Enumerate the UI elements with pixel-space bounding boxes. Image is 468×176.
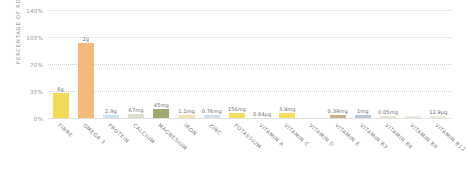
bar[interactable]	[179, 115, 195, 118]
y-axis-tick: 35%	[30, 89, 43, 95]
bar-value-label: 45mg	[154, 102, 169, 108]
bar-value-label: 1.1mg	[178, 108, 195, 114]
x-label-slot: VITAMIN A	[250, 120, 275, 176]
x-label-slot: MAGNESIUM	[149, 120, 174, 176]
bar[interactable]	[229, 113, 245, 118]
bar-value-label: 0.05mg	[378, 109, 398, 115]
bar[interactable]	[430, 116, 446, 118]
bar-value-label: 0.76mg	[202, 108, 222, 114]
bar[interactable]	[128, 114, 144, 118]
x-axis-tick-label: VITAMIN B12	[434, 122, 467, 153]
x-label-slot: ZINC	[199, 120, 224, 176]
bar-slot[interactable]: 2.9g	[98, 10, 123, 118]
bar[interactable]	[153, 109, 169, 118]
bar-slot[interactable]: 0.39mg	[325, 10, 350, 118]
bar-value-label: 67mg	[129, 107, 144, 113]
x-label-slot: VITAMIN B6	[375, 120, 400, 176]
bar[interactable]	[330, 115, 346, 118]
bar-slot[interactable]: 156mg	[224, 10, 249, 118]
y-axis-tick: 70%	[30, 62, 43, 68]
x-label-slot: IRON	[174, 120, 199, 176]
bar-value-label: 6g	[57, 86, 64, 92]
x-label-slot: FIBRE	[48, 120, 73, 176]
bar-value-label: 2g	[82, 36, 89, 42]
bar-slot[interactable]: 2g	[73, 10, 98, 118]
bar[interactable]	[204, 115, 220, 118]
bar[interactable]	[53, 93, 69, 118]
bar-slot[interactable]: 12.9µg	[426, 10, 451, 118]
bar[interactable]	[405, 116, 421, 118]
bar-value-label: 1mg	[357, 108, 369, 114]
y-axis-tick: 140%	[26, 8, 43, 14]
x-label-slot: VITAMIN B12	[426, 120, 451, 176]
x-axis-tick-label: ZINC	[208, 122, 223, 136]
bar-slot[interactable]: 1mg	[350, 10, 375, 118]
bar-value-label: 2.9g	[105, 108, 117, 114]
bar-slot[interactable]: 0.76mg	[199, 10, 224, 118]
bar-value-label: 0.64µg	[253, 111, 271, 117]
bar-slot[interactable]: 3.9mg	[275, 10, 300, 118]
bar-slot[interactable]: 67mg	[124, 10, 149, 118]
bar[interactable]	[355, 115, 371, 118]
x-label-slot: POTASSIUM	[224, 120, 249, 176]
x-label-slot: PROTEIN	[98, 120, 123, 176]
y-axis-tick: 105%	[26, 35, 43, 41]
bar[interactable]	[78, 43, 94, 118]
gridline: 0%	[48, 118, 451, 119]
bar-slot[interactable]: 6g	[48, 10, 73, 118]
bar-value-label: 0.39mg	[328, 108, 348, 114]
x-label-slot: VITAMIN D	[300, 120, 325, 176]
bar-slot[interactable]	[300, 10, 325, 118]
x-axis-labels: FIBREOMEGA 3PROTEINCALCIUMMAGNESIUMIRONZ…	[48, 120, 451, 176]
x-label-slot: CALCIUM	[124, 120, 149, 176]
bar-slot[interactable]: 45mg	[149, 10, 174, 118]
bar-slot[interactable]	[401, 10, 426, 118]
bar-slot[interactable]: 1.1mg	[174, 10, 199, 118]
y-axis-title: PERCENTAGE OF RDA	[15, 0, 21, 77]
bar[interactable]	[380, 116, 396, 118]
bar-value-label: 12.9µg	[429, 109, 447, 115]
bar-slot[interactable]: 0.05mg	[375, 10, 400, 118]
bar-value-label: 156mg	[228, 106, 246, 112]
x-label-slot: VITAMIN B3	[350, 120, 375, 176]
x-axis-tick-label: IRON	[183, 122, 198, 137]
bar-slot[interactable]: 0.64µg	[250, 10, 275, 118]
bar-value-label: 3.9mg	[279, 106, 296, 112]
x-label-slot: VITAMIN B9	[401, 120, 426, 176]
x-axis-tick-label: FIBRE	[57, 122, 74, 138]
x-label-slot: VITAMIN E	[325, 120, 350, 176]
x-label-slot: OMEGA 3	[73, 120, 98, 176]
y-axis-tick: 0%	[34, 116, 43, 122]
plot-area: 0%35%70%105%140% 6g2g2.9g67mg45mg1.1mg0.…	[48, 10, 451, 118]
bar[interactable]	[279, 113, 295, 118]
bar[interactable]	[103, 115, 119, 118]
bar-series: 6g2g2.9g67mg45mg1.1mg0.76mg156mg0.64µg3.…	[48, 10, 451, 118]
x-label-slot: VITAMIN C	[275, 120, 300, 176]
